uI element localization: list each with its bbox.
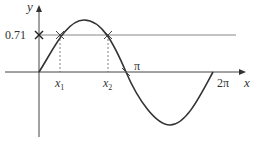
sine-graph: y x 0.71 x1 x2 π 2π: [0, 0, 261, 152]
two-pi-label: 2π: [217, 76, 229, 90]
y-axis-arrow-icon: [36, 5, 42, 12]
x-axis-label: x: [243, 75, 250, 90]
x2-label: x2: [102, 76, 112, 92]
value-0.71-label: 0.71: [5, 28, 26, 42]
y-axis-label: y: [25, 0, 33, 14]
pi-label: π: [134, 59, 140, 73]
x1-label: x1: [54, 76, 64, 92]
